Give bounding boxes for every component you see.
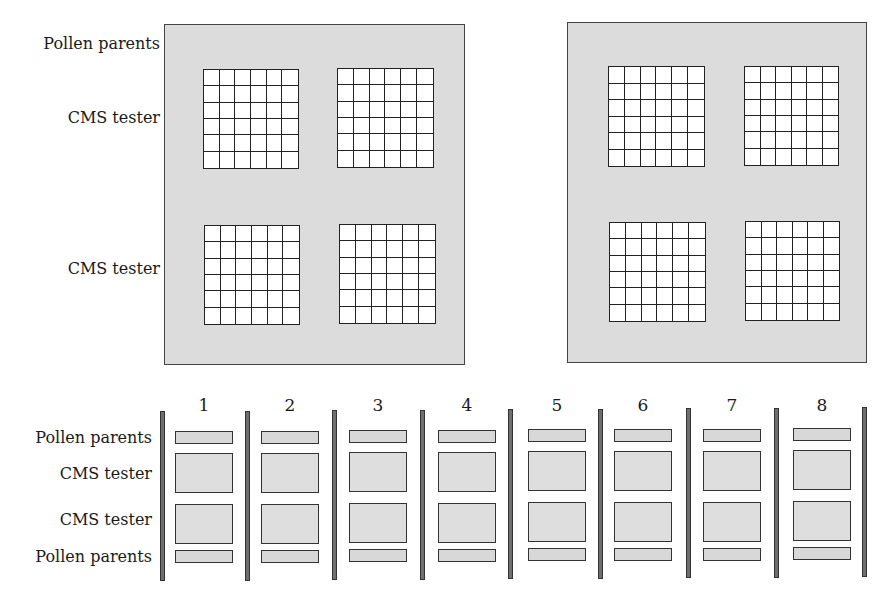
grid-cell xyxy=(251,119,267,135)
grid-cell xyxy=(205,275,221,291)
grid-cell xyxy=(356,274,372,290)
grid-cell xyxy=(745,149,761,165)
grid-cell xyxy=(385,69,401,85)
grid-cell xyxy=(656,100,672,117)
grid-cell xyxy=(372,290,388,306)
grid-cell xyxy=(688,150,704,167)
grid-cell xyxy=(267,86,283,102)
grid-cell xyxy=(385,102,401,118)
grid-cell xyxy=(625,133,641,150)
grid-cell xyxy=(673,288,689,304)
pollen-parent-strip-top xyxy=(793,428,851,441)
grid-cell xyxy=(776,83,792,99)
grid-cell xyxy=(236,275,252,291)
pollen-parent-strip-bottom xyxy=(703,548,761,561)
grid-cell xyxy=(745,132,761,148)
grid-cell xyxy=(417,102,433,118)
grid-cell xyxy=(268,275,284,291)
grid-cell xyxy=(642,256,658,272)
grid-cell xyxy=(761,132,777,148)
grid-cell xyxy=(401,102,417,118)
plot-number: 1 xyxy=(189,395,219,415)
plot-divider xyxy=(598,409,603,579)
cms-tester-block-lower xyxy=(175,504,233,544)
grid-cell xyxy=(338,151,354,167)
grid-cell xyxy=(823,67,839,83)
grid-cell xyxy=(205,242,221,258)
grid-cell xyxy=(808,255,824,271)
plot-number: 6 xyxy=(628,395,658,415)
grid-cell xyxy=(385,118,401,134)
grid-cell xyxy=(370,151,386,167)
grid-cell xyxy=(610,288,626,304)
grid-cell xyxy=(777,238,793,254)
grid-cell xyxy=(641,67,657,84)
left-panel-tester-grid xyxy=(337,68,434,168)
grid-cell xyxy=(354,118,370,134)
grid-cell xyxy=(823,132,839,148)
grid-cell xyxy=(625,84,641,101)
grid-cell xyxy=(642,272,658,288)
grid-cell xyxy=(673,305,689,321)
grid-cell xyxy=(656,150,672,167)
grid-cell xyxy=(657,223,673,239)
grid-cell xyxy=(610,305,626,321)
cms-tester-block-lower xyxy=(349,503,407,543)
cms-tester-block-upper xyxy=(614,451,672,491)
grid-cell xyxy=(745,116,761,132)
cms-tester-block-lower xyxy=(614,502,672,542)
grid-cell xyxy=(776,116,792,132)
grid-cell xyxy=(777,222,793,238)
grid-cell xyxy=(746,304,762,320)
grid-cell xyxy=(761,149,777,165)
grid-cell xyxy=(401,85,417,101)
grid-cell xyxy=(807,116,823,132)
grid-cell xyxy=(220,119,236,135)
grid-cell xyxy=(417,85,433,101)
grid-cell xyxy=(762,287,778,303)
grid-cell xyxy=(688,133,704,150)
grid-cell xyxy=(283,259,299,275)
grid-cell xyxy=(356,290,372,306)
grid-cell xyxy=(220,70,236,86)
grid-cell xyxy=(252,226,268,242)
grid-cell xyxy=(746,271,762,287)
plot-divider xyxy=(774,408,779,578)
grid-cell xyxy=(688,67,704,84)
grid-cell xyxy=(642,305,658,321)
grid-cell xyxy=(205,259,221,275)
cms-tester-block-upper xyxy=(793,450,851,490)
grid-cell xyxy=(283,308,299,324)
cms-tester-block-upper xyxy=(261,453,319,493)
grid-cell xyxy=(387,241,403,257)
grid-cell xyxy=(777,255,793,271)
grid-cell xyxy=(221,259,237,275)
grid-cell xyxy=(340,290,356,306)
label-cms-tester-lower: CMS tester xyxy=(68,259,160,278)
grid-cell xyxy=(387,258,403,274)
grid-cell xyxy=(777,287,793,303)
grid-cell xyxy=(338,102,354,118)
label-cms-tester-row2: CMS tester xyxy=(60,464,152,483)
cms-tester-block-lower xyxy=(261,504,319,544)
grid-cell xyxy=(762,255,778,271)
grid-cell xyxy=(626,223,642,239)
grid-cell xyxy=(372,241,388,257)
cms-tester-block-lower xyxy=(793,501,851,541)
grid-cell xyxy=(417,134,433,150)
left-panel-tester-grid xyxy=(339,224,436,324)
grid-cell xyxy=(419,307,435,323)
grid-cell xyxy=(205,291,221,307)
grid-cell xyxy=(252,291,268,307)
grid-cell xyxy=(609,150,625,167)
cms-tester-block-upper xyxy=(528,451,586,491)
grid-cell xyxy=(401,151,417,167)
grid-cell xyxy=(762,238,778,254)
right-panel-tester-grid xyxy=(608,66,705,167)
pollen-parent-strip-bottom xyxy=(793,547,851,560)
grid-cell xyxy=(401,134,417,150)
grid-cell xyxy=(419,241,435,257)
grid-cell xyxy=(824,271,840,287)
grid-cell xyxy=(387,307,403,323)
plot-divider xyxy=(332,410,337,580)
